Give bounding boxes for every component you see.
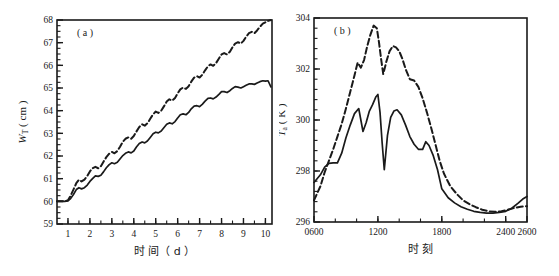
x-axis-title: 时 间（ d ） [134,245,195,258]
x-tick-label: 4 [131,229,136,239]
y-tick-label: 59 [44,219,54,229]
x-tick-label: 8 [219,229,224,239]
x-tick-label: 2400 [496,227,515,237]
plot-frame [314,18,527,222]
figure-container: 1234567891059606162636465666768( a )时 间（… [0,0,559,276]
x-tick-label: 6 [175,229,180,239]
y-tick-label: 298 [296,166,311,176]
y-tick-label: 61 [44,174,54,184]
y-tick-label: 66 [44,61,54,71]
y-tick-label: 64 [44,106,54,116]
panel-label: ( a ) [77,27,93,39]
series-solid-line [314,95,527,214]
x-axis-title: 时 刻 [408,242,434,256]
y-tick-label: 304 [296,13,311,23]
x-tick-label: 0600 [305,227,324,237]
x-tick-label: 2600 [518,227,537,237]
y-axis-title: Ta ( K ) [279,103,289,136]
plot-frame [57,20,272,224]
series-solid-line [57,81,271,202]
x-tick-label: 1800 [432,227,451,237]
x-tick-label: 1 [66,229,71,239]
x-tick-label: 3 [109,229,114,239]
y-axis-title-text: WT ( cm ) [16,100,30,143]
series-dashed-line [314,26,527,212]
y-tick-label: 302 [296,64,311,74]
panel-label: ( b ) [334,25,351,37]
y-tick-label: 65 [44,83,54,93]
panel-b-plot: 06001200180024002600296298300302304( b )… [279,0,558,276]
panel-b: 06001200180024002600296298300302304( b )… [279,0,558,276]
x-tick-label: 10 [261,229,271,239]
panel-a-plot: 1234567891059606162636465666768( a )时 间（… [0,0,279,276]
x-tick-label: 7 [197,229,202,239]
y-axis-title-text: Ta ( K ) [279,103,289,136]
y-tick-label: 62 [44,151,54,161]
x-tick-label: 5 [153,229,158,239]
y-axis-title: WT ( cm ) [16,100,30,143]
x-tick-label: 2 [88,229,93,239]
y-tick-label: 300 [296,115,311,125]
y-tick-label: 296 [296,217,311,227]
y-tick-label: 63 [44,129,54,139]
series-dashed-line [57,20,271,201]
panel-a: 1234567891059606162636465666768( a )时 间（… [0,0,279,276]
x-tick-label: 9 [241,229,246,239]
y-tick-label: 68 [44,15,54,25]
y-tick-label: 67 [44,38,54,48]
x-tick-label: 1200 [368,227,387,237]
y-tick-label: 60 [44,197,54,207]
